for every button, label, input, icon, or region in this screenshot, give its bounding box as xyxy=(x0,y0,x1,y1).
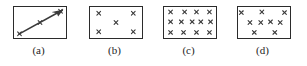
panel-b-caption: (b) xyxy=(76,43,153,57)
panel-d-box xyxy=(237,6,291,39)
panel-c: (c) xyxy=(150,0,227,66)
panel-b-box xyxy=(89,6,143,39)
figure-container: (a) (b) (c) (d) xyxy=(0,0,307,66)
panel-c-box xyxy=(163,6,217,39)
panel-d: (d) xyxy=(224,0,301,66)
panel-d-caption: (d) xyxy=(224,43,301,57)
panel-c-caption: (c) xyxy=(150,43,227,57)
panel-d-plot xyxy=(237,6,291,39)
panel-b-plot xyxy=(89,6,143,39)
panel-c-plot xyxy=(163,6,217,39)
panel-a-box xyxy=(13,6,67,39)
panel-a-caption: (a) xyxy=(0,43,77,57)
panel-a: (a) xyxy=(0,0,77,66)
panel-b: (b) xyxy=(76,0,153,66)
panel-a-plot xyxy=(13,6,67,39)
